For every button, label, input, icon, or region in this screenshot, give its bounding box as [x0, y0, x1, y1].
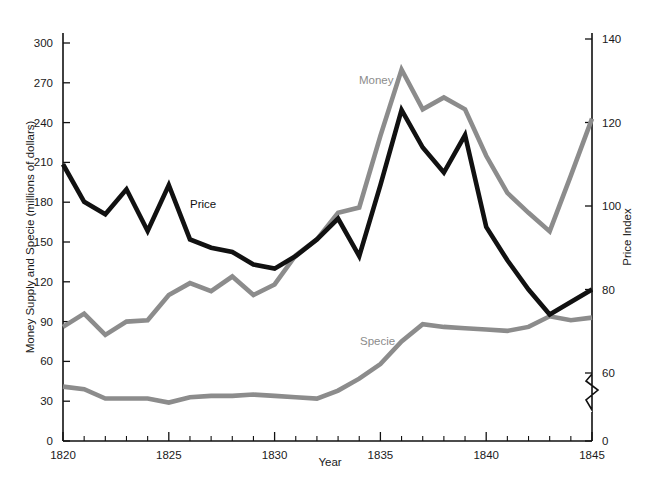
- chart-svg: 0306090120150180210240270300 06080100120…: [0, 0, 665, 492]
- y-left-tick-label: 0: [47, 435, 53, 447]
- x-tick-label: 1830: [262, 449, 288, 461]
- chart-figure: 0306090120150180210240270300 06080100120…: [0, 0, 665, 492]
- y-right-tick-label: 0: [602, 435, 608, 447]
- y-left-tick-label: 270: [34, 77, 53, 89]
- y-right-tick-label: 100: [602, 200, 621, 212]
- series-label-specie: Specie: [360, 335, 395, 347]
- chart-background: [0, 0, 665, 492]
- y-left-tick-label: 300: [34, 37, 53, 49]
- y-right-tick-label: 80: [602, 284, 615, 296]
- y-left-tick-label: 150: [34, 236, 53, 248]
- x-tick-label: 1825: [156, 449, 182, 461]
- x-tick-label: 1835: [368, 449, 394, 461]
- y-left-tick-label: 90: [40, 316, 53, 328]
- y-left-tick-label: 210: [34, 156, 53, 168]
- x-tick-label: 1845: [579, 449, 605, 461]
- y-right-tick-label: 140: [602, 33, 621, 45]
- y-left-tick-label: 180: [34, 196, 53, 208]
- y-left-tick-label: 240: [34, 117, 53, 129]
- y-right-tick-label: 120: [602, 117, 621, 129]
- x-tick-label: 1820: [50, 449, 76, 461]
- y-left-tick-label: 30: [40, 395, 53, 407]
- series-label-price: Price: [190, 198, 216, 210]
- y-right-axis-title: Price Index: [621, 208, 633, 266]
- y-left-axis-title: Money Supply and Specie (millions of dol…: [24, 120, 36, 353]
- y-left-tick-label: 60: [40, 355, 53, 367]
- series-label-money: Money: [359, 74, 394, 86]
- y-left-tick-label: 120: [34, 276, 53, 288]
- x-tick-label: 1840: [473, 449, 499, 461]
- x-axis-title: Year: [318, 456, 341, 468]
- y-right-tick-label: 60: [602, 367, 615, 379]
